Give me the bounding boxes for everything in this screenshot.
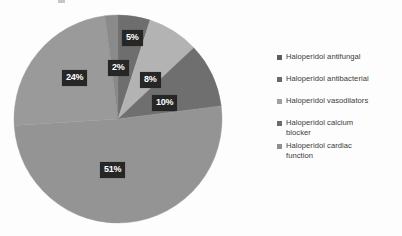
legend-item-antibacterial[interactable]: Haloperidol antibacterial bbox=[277, 74, 399, 84]
legend-label-4-line1: Haloperidol cardiac bbox=[286, 141, 352, 150]
legend-label-1: Haloperidol antibacterial bbox=[286, 74, 369, 84]
legend-swatch-icon-1 bbox=[277, 77, 282, 82]
legend-label-3-line1: Haloperidol calcium bbox=[286, 118, 353, 127]
legend-item-antifungal[interactable]: Haloperidol antifungal bbox=[277, 52, 399, 62]
legend-label-2: Haloperidol vasodilators bbox=[286, 96, 368, 106]
chart-legend: Haloperidol antifungal Haloperidol antib… bbox=[277, 52, 399, 164]
pie-slice-group bbox=[14, 15, 222, 223]
legend-item-vasodilators[interactable]: Haloperidol vasodilators bbox=[277, 96, 399, 106]
legend-swatch-icon-0 bbox=[277, 55, 282, 60]
data-label-slice-5: 2% bbox=[108, 60, 129, 76]
pie-plot-area: 5% 8% 10% 51% 24% 2% bbox=[13, 14, 223, 231]
data-label-slice-0: 5% bbox=[122, 30, 143, 46]
data-label-slice-1: 8% bbox=[140, 72, 161, 88]
data-label-slice-2: 10% bbox=[152, 95, 177, 111]
pie-chart-figure: 5% 8% 10% 51% 24% 2% Haloperidol antifun… bbox=[0, 0, 402, 236]
data-label-slice-3: 51% bbox=[100, 162, 125, 178]
legend-label-3-line2: blocker bbox=[286, 128, 311, 137]
scan-artifact bbox=[58, 0, 65, 3]
data-label-slice-4: 24% bbox=[62, 70, 87, 86]
pie-svg bbox=[13, 14, 223, 231]
legend-label-3: Haloperidol calcium blocker bbox=[286, 118, 353, 138]
legend-label-4-line2: function bbox=[286, 151, 313, 160]
legend-swatch-icon-3 bbox=[277, 121, 282, 126]
legend-swatch-icon-2 bbox=[277, 99, 282, 104]
legend-item-cardiac-function[interactable]: Haloperidol cardiac function bbox=[277, 141, 399, 161]
legend-label-0: Haloperidol antifungal bbox=[286, 52, 361, 62]
legend-swatch-icon-4 bbox=[277, 144, 282, 149]
legend-item-calcium-blocker[interactable]: Haloperidol calcium blocker bbox=[277, 118, 399, 138]
legend-label-4: Haloperidol cardiac function bbox=[286, 141, 352, 161]
